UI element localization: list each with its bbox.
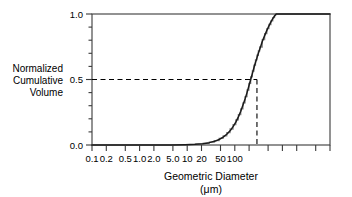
chart-figure: 0.0 0.5 1.0 Normalized Cumulative Volume [0,0,352,197]
x-tick-label-8: 50 [215,153,226,164]
y-axis-title-line-1: Normalized [12,63,63,74]
x-axis-units-text: (μm) [200,183,222,195]
y-axis-title-line-2: Cumulative [13,75,63,86]
cumulative-distribution-chart: 0.0 0.5 1.0 Normalized Cumulative Volume [0,0,352,197]
x-tick-label-3: 1.0 [133,153,146,164]
x-tick-label-0: 0.1 [85,153,98,164]
y-tick-label-1: 0.5 [70,74,83,85]
x-axis-title: Geometric Diameter (μm) [164,170,258,195]
y-axis-title: Normalized Cumulative Volume [12,63,63,98]
y-tick-label-2: 1.0 [70,9,83,20]
x-tick-label-5: 5.0 [166,153,179,164]
x-tick-label-6: 10 [182,153,193,164]
x-axis-tick-labels: 0.1 0.2 0.5 1.0 2.0 5.0 10 20 50 100 [85,153,242,164]
x-axis-title-text: Geometric Diameter [164,170,258,182]
y-axis-ticks [86,14,92,145]
y-axis-tick-labels: 0.0 0.5 1.0 [70,9,83,151]
x-tick-label-2: 0.5 [119,153,132,164]
y-tick-label-0: 0.0 [70,140,83,151]
x-tick-label-1: 0.2 [100,153,113,164]
y-axis-title-line-3: Volume [30,87,64,98]
x-tick-label-9: 100 [227,153,243,164]
median-reference-lines [92,80,257,146]
x-tick-label-4: 2.0 [147,153,160,164]
x-axis-ticks [92,145,330,151]
x-tick-label-7: 20 [196,153,207,164]
